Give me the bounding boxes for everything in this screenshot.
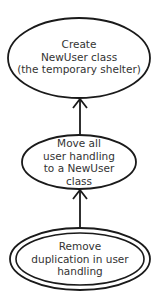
node-line: handling [15,265,145,278]
node-line: Move all [22,137,136,150]
node-line: user handling [22,150,136,163]
node-line: duplication in user [15,253,145,266]
node-move-user-handling-label: Move all user handling to a NewUser clas… [22,137,136,187]
node-remove-duplication-label: Remove duplication in user handling [15,240,145,278]
edge-remove-to-move [73,190,87,228]
node-line: Create [9,38,149,51]
node-line: Remove [15,240,145,253]
node-line: NewUser class [9,51,149,64]
node-create-newuser-label: Create NewUser class (the temporary shel… [9,38,149,76]
node-line: (the temporary shelter) [9,63,149,76]
node-line: class [22,175,136,188]
node-line: to a NewUser [22,162,136,175]
edge-move-to-create [73,99,87,135]
